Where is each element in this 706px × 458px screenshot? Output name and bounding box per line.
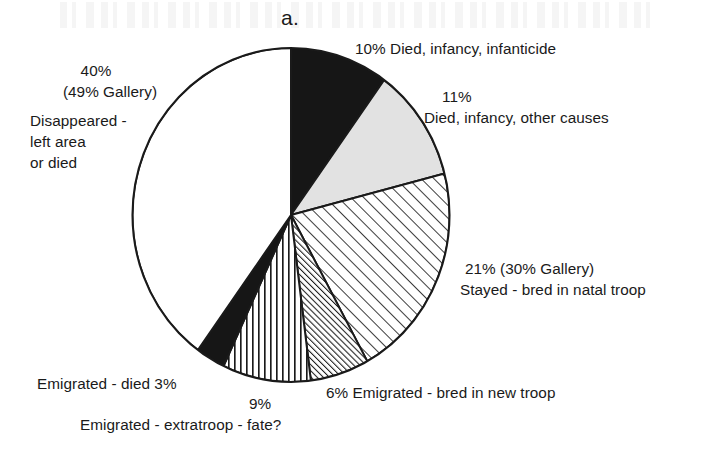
slice-label-extratroop-text: Emigrated - extratroop - fate?	[80, 414, 281, 435]
slice-label-new-troop: 6% Emigrated - bred in new troop	[326, 382, 555, 403]
slice-label-disappeared-gallery: (49% Gallery)	[30, 81, 190, 102]
figure-root: a. 10% Died, infancy	[0, 0, 706, 458]
slice-label-extratroop: Emigrated - extratroop - fate?	[80, 414, 281, 435]
slice-label-natal-troop: 21% (30% Gallery) Stayed - bred in natal…	[460, 258, 646, 300]
slice-label-infanticide-text: 10% Died, infancy, infanticide	[355, 38, 556, 59]
slice-label-disappeared-line1: Disappeared -	[30, 110, 190, 131]
slice-label-disappeared-line3: or died	[30, 152, 190, 173]
slice-label-disappeared-percent: 40%	[30, 60, 190, 81]
slice-label-disappeared-line2: left area	[30, 131, 190, 152]
slice-label-natal-troop-text: Stayed - bred in natal troop	[460, 279, 646, 300]
slice-label-other-causes-percent: 11%	[424, 86, 609, 107]
slice-label-extratroop-percent-wrap: 9%	[249, 393, 271, 414]
slice-label-natal-troop-percent: 21% (30% Gallery)	[460, 258, 646, 279]
slice-label-new-troop-text: 6% Emigrated - bred in new troop	[326, 382, 555, 403]
slice-label-extratroop-percent: 9%	[249, 393, 271, 414]
slice-label-other-causes-text: Died, infancy, other causes	[424, 107, 609, 128]
slice-label-other-causes: 11% Died, infancy, other causes	[424, 86, 609, 128]
spacer	[30, 102, 190, 110]
slice-label-disappeared: 40% (49% Gallery) Disappeared - left are…	[30, 60, 190, 173]
slice-label-infanticide: 10% Died, infancy, infanticide	[355, 38, 556, 59]
slice-label-emigrated-died-text: Emigrated - died 3%	[37, 373, 177, 394]
slice-label-emigrated-died: Emigrated - died 3%	[37, 373, 177, 394]
